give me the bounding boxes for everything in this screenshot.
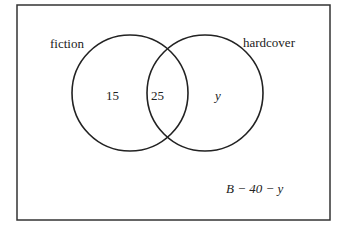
fiction-only-value: 15	[106, 88, 119, 103]
hardcover-only-value: y	[213, 88, 221, 103]
hardcover-label: hardcover	[243, 35, 296, 50]
outside-value: B − 40 − y	[226, 181, 283, 196]
fiction-label: fiction	[50, 36, 84, 51]
venn-diagram: fiction hardcover 15 25 y B − 40 − y	[0, 0, 346, 229]
intersection-value: 25	[151, 88, 164, 103]
